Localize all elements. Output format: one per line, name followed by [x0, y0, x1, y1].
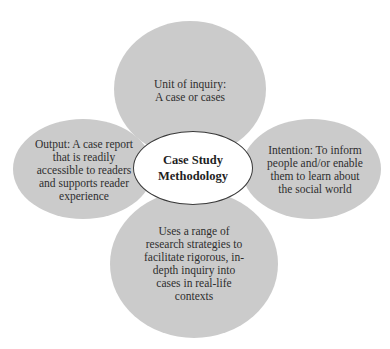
case-study-diagram: Unit of inquiry: A case or cases Intenti… [0, 0, 390, 349]
center-title: Case Study Methodology [158, 152, 228, 184]
petal-top-text: Unit of inquiry: A case or cases [130, 78, 250, 104]
petal-left-text: Output: A case report that is readily ac… [22, 138, 146, 203]
center-node: Case Study Methodology [133, 131, 253, 205]
petal-right-text: Intention: To inform people and/or enabl… [255, 144, 375, 196]
petal-bottom-text: Uses a range of research strategies to f… [134, 225, 254, 303]
